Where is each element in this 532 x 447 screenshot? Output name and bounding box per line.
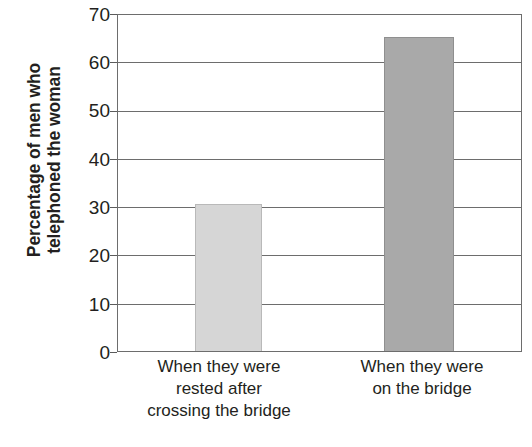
y-axis-title-text: Percentage of men who telephoned the wom… [24, 63, 65, 257]
y-tick-mark-40 [110, 159, 117, 160]
plot-area [117, 14, 522, 352]
y-tick-label-40: 40 [74, 150, 110, 169]
bar-rested-after-crossing [195, 204, 262, 351]
gridline-20 [118, 255, 521, 256]
y-tick-label-10: 10 [74, 295, 110, 314]
y-tick-label-70: 70 [74, 5, 110, 24]
y-tick-mark-30 [110, 207, 117, 208]
x-category-label-0-line-2: rested after [109, 378, 329, 400]
gridline-40 [118, 159, 521, 160]
x-category-label-1-line-1: When they were [312, 356, 532, 378]
x-category-label-1: When they were on the bridge [312, 356, 532, 400]
gridline-10 [118, 304, 521, 305]
y-axis-title-line-2: telephoned the woman [44, 63, 64, 257]
gridline-30 [118, 207, 521, 208]
x-category-label-0: When they were rested after crossing the… [109, 356, 329, 422]
bar-on-the-bridge [384, 37, 454, 351]
x-category-label-0-line-1: When they were [109, 356, 329, 378]
y-tick-label-60: 60 [74, 53, 110, 72]
y-axis-title-line-1: Percentage of men who [24, 63, 44, 257]
y-tick-mark-0 [110, 352, 117, 353]
y-tick-mark-70 [110, 14, 117, 15]
y-tick-mark-50 [110, 111, 117, 112]
x-category-label-1-line-2: on the bridge [312, 378, 532, 400]
gridline-60 [118, 62, 521, 63]
x-category-label-0-line-3: crossing the bridge [109, 400, 329, 422]
y-tick-mark-60 [110, 62, 117, 63]
gridline-50 [118, 111, 521, 112]
y-tick-mark-20 [110, 255, 117, 256]
y-tick-label-20: 20 [74, 246, 110, 265]
y-tick-label-50: 50 [74, 101, 110, 120]
y-tick-label-0: 0 [74, 343, 110, 362]
y-tick-mark-10 [110, 304, 117, 305]
y-axis-tick-labels: 70 60 50 40 30 20 10 0 [74, 0, 110, 447]
x-axis-category-labels: When they were rested after crossing the… [117, 356, 522, 446]
bar-chart: Percentage of men who telephoned the wom… [0, 0, 532, 447]
y-tick-label-30: 30 [74, 198, 110, 217]
